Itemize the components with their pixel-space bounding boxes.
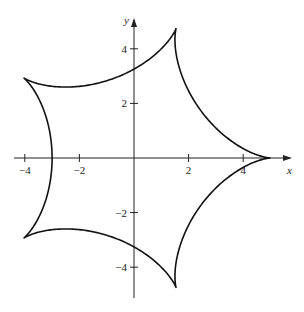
- y-tick-label: −2: [115, 207, 127, 219]
- y-tick-label: 2: [122, 97, 128, 109]
- y-tick-label: 4: [122, 43, 128, 55]
- y-axis-label: y: [123, 14, 129, 26]
- y-tick-label: −4: [115, 261, 127, 273]
- x-tick-label: 2: [186, 164, 192, 176]
- x-tick-label: −2: [74, 164, 86, 176]
- y-axis-arrow-icon: [131, 18, 137, 27]
- x-tick-label: −4: [19, 164, 31, 176]
- hypocycloid-plot: −4−22442−2−4 x y: [0, 0, 304, 312]
- x-axis-label: x: [286, 164, 292, 176]
- x-axis-arrow-icon: [283, 155, 292, 161]
